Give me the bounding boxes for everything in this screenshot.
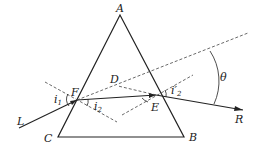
incident-extension [77,33,248,100]
label-R: R [234,113,243,126]
incident-ray [19,100,77,128]
label-A: A [115,2,124,15]
label-C: C [44,132,53,145]
angle-arc-i2 [87,99,88,106]
label-i2: i2 [94,100,103,114]
label-E: E [150,101,159,114]
angle-arc-e-inner [142,98,148,102]
angle-arc-theta [210,51,219,104]
label-L: L [16,115,24,128]
diagram-svg: A B C F E D L R i1 i2 i′2 θ [0,0,260,151]
emergent-extension [118,86,156,95]
label-i2-prime: i′2 [171,84,182,98]
label-B: B [188,131,197,144]
prism-triangle [58,15,184,137]
prism-diagram: A B C F E D L R i1 i2 i′2 θ [0,0,260,151]
label-F: F [70,86,79,99]
label-theta: θ [220,71,227,84]
angle-arc-i2p [165,90,166,97]
label-D: D [109,73,119,86]
label-i1: i1 [54,93,62,107]
